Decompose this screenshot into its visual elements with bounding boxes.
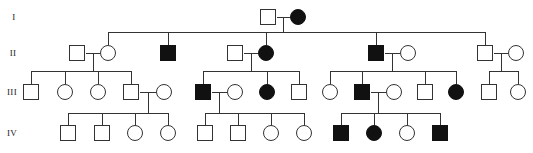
individual-male-affected[interactable] — [369, 46, 384, 61]
individual-male-affected[interactable] — [161, 46, 176, 61]
individual-male-unaffected[interactable] — [228, 46, 243, 61]
individual-female-unaffected[interactable] — [323, 85, 338, 100]
individual-female-unaffected[interactable] — [101, 46, 116, 61]
individual-female-unaffected[interactable] — [400, 126, 415, 141]
individual-male-affected[interactable] — [433, 126, 448, 141]
generation-label-II: II — [10, 48, 17, 58]
individual-male-unaffected[interactable] — [261, 10, 276, 25]
generation-label-I: I — [12, 12, 15, 22]
mating-lines-layer — [86, 17, 508, 92]
individual-male-affected[interactable] — [196, 85, 211, 100]
individual-female-unaffected[interactable] — [228, 85, 243, 100]
generation-label-IV: IV — [7, 128, 17, 138]
individual-male-unaffected[interactable] — [198, 126, 213, 141]
individual-male-affected[interactable] — [355, 85, 370, 100]
individual-female-affected[interactable] — [291, 10, 306, 25]
individual-female-unaffected[interactable] — [401, 46, 416, 61]
individual-female-affected[interactable] — [260, 85, 275, 100]
individual-female-unaffected[interactable] — [58, 85, 73, 100]
individual-female-unaffected[interactable] — [297, 126, 312, 141]
individual-female-unaffected[interactable] — [264, 126, 279, 141]
pedigree-canvas: IIIIIIIV — [0, 0, 533, 153]
individual-female-unaffected[interactable] — [128, 126, 143, 141]
individual-female-affected[interactable] — [449, 85, 464, 100]
individual-male-unaffected[interactable] — [292, 85, 307, 100]
individual-symbols-layer — [24, 10, 526, 141]
individual-female-unaffected[interactable] — [509, 46, 524, 61]
individual-male-unaffected[interactable] — [70, 46, 85, 61]
individual-male-affected[interactable] — [334, 126, 349, 141]
individual-female-unaffected[interactable] — [157, 85, 172, 100]
individual-female-unaffected[interactable] — [91, 85, 106, 100]
generation-labels-layer: IIIIIIIV — [7, 12, 17, 138]
individual-male-unaffected[interactable] — [418, 85, 433, 100]
sibship-lines-layer — [31, 32, 518, 113]
generation-label-III: III — [7, 87, 17, 97]
individual-male-unaffected[interactable] — [24, 85, 39, 100]
individual-male-unaffected[interactable] — [482, 85, 497, 100]
individual-female-unaffected[interactable] — [387, 85, 402, 100]
individual-female-affected[interactable] — [259, 46, 274, 61]
individual-female-affected[interactable] — [367, 126, 382, 141]
individual-female-unaffected[interactable] — [161, 126, 176, 141]
individual-male-unaffected[interactable] — [478, 46, 493, 61]
individual-male-unaffected[interactable] — [231, 126, 246, 141]
pedigree-chart: IIIIIIIV — [0, 0, 533, 153]
individual-male-unaffected[interactable] — [124, 85, 139, 100]
individual-male-unaffected[interactable] — [95, 126, 110, 141]
individual-female-unaffected[interactable] — [511, 85, 526, 100]
individual-male-unaffected[interactable] — [61, 126, 76, 141]
